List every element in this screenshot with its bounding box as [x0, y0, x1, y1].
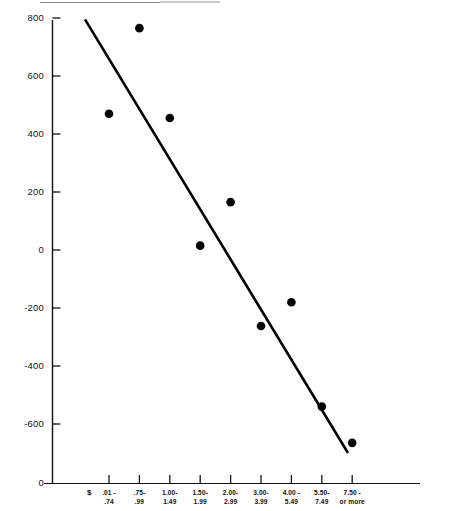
- x-axis-tick-label: 7.50 -or more: [327, 488, 377, 506]
- data-point-group: [105, 24, 357, 447]
- x-tick-marks: [109, 475, 352, 483]
- data-point: [135, 24, 144, 33]
- regression-trend-line: [85, 19, 348, 453]
- data-point: [105, 109, 114, 118]
- y-axis-break-zero-label: 0: [0, 477, 44, 488]
- y-axis-tick-label: 600: [0, 70, 44, 81]
- x-tick-label-line1: 7.50 -: [327, 488, 377, 497]
- y-axis-tick-label: 800: [0, 12, 44, 23]
- data-point: [318, 402, 327, 411]
- x-tick-label-line2: or more: [327, 497, 377, 506]
- y-axis-tick-label: 200: [0, 186, 44, 197]
- y-axis-tick-label: 400: [0, 128, 44, 139]
- data-point: [287, 298, 296, 307]
- y-axis-tick-label: -200: [0, 302, 44, 313]
- y-axis-tick-label: -400: [0, 360, 44, 371]
- scatter-plot-canvas: [0, 0, 455, 511]
- y-axis-tick-label: -600: [0, 418, 44, 429]
- data-point: [348, 439, 357, 448]
- data-point: [257, 322, 266, 331]
- y-axis-tick-label: 0: [0, 244, 44, 255]
- chart-figure: 8006004002000-200-400-6000 $ .01 -.74.75…: [0, 0, 455, 511]
- data-point: [166, 114, 175, 123]
- data-point: [196, 241, 205, 250]
- y-tick-marks: [53, 18, 61, 424]
- data-point: [226, 198, 235, 207]
